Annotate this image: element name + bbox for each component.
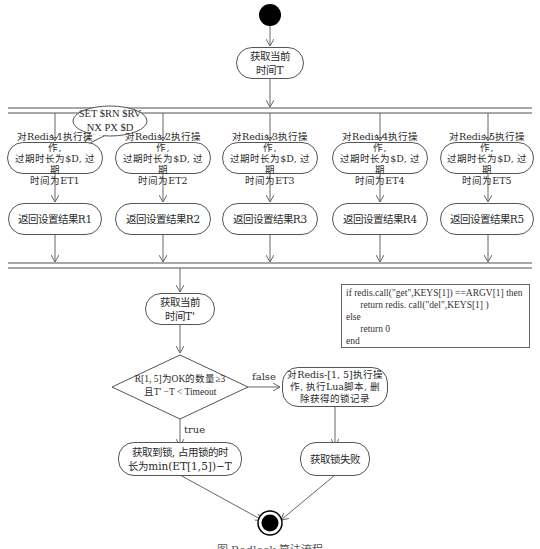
node-text: 返回设置结果R1 xyxy=(18,212,93,226)
node-text: 时间为ET2 xyxy=(120,175,206,186)
code-line: else xyxy=(346,311,525,323)
lock-acquired-node: 获取到锁, 占用锁的时长为min(ET[1,5])−T xyxy=(118,442,242,476)
node-text: 时间为ET4 xyxy=(337,175,423,186)
unlock-all-node: 对Redis-[1, 5]执行操作, 执行Lua脚本, 删除获得的锁记录 xyxy=(282,367,388,407)
node-text: 获取当前 xyxy=(160,295,200,309)
false-label: false xyxy=(252,371,276,382)
node-text: 对Redis-[1, 5]执行操 xyxy=(287,369,383,381)
redis-3-set-node: 对Redis-3执行操作,过期时长为$D, 过期时间为ET3 xyxy=(222,142,318,174)
figure-caption: 图 Redlock 算法流程 xyxy=(0,541,540,549)
node-text: 对Redis-3执行操作, xyxy=(227,131,313,153)
node-text: 返回设置结果R4 xyxy=(343,212,418,226)
redis-2-set-node: 对Redis-2执行操作,过期时长为$D, 过期时间为ET2 xyxy=(115,142,211,174)
true-label: true xyxy=(184,424,205,435)
node-text: 时间为ET5 xyxy=(445,175,529,186)
node-text: 返回设置结果R3 xyxy=(233,212,308,226)
node-text: 过期时长为$D, 过期 xyxy=(12,153,98,175)
result-r1-node: 返回设置结果R1 xyxy=(8,203,102,235)
code-line: if redis.call("get",KEYS[1]) ==ARGV[1] t… xyxy=(346,287,525,299)
node-text: 时间为ET3 xyxy=(227,175,313,186)
lua-script-box: if redis.call("get",KEYS[1]) ==ARGV[1] t… xyxy=(341,284,530,348)
decision-line: R[1, 5]为OK的数量≥3 xyxy=(120,373,240,386)
node-text: 对Redis-1执行操作, xyxy=(12,131,98,153)
get-time-t-prime-node: 获取当前时间T' xyxy=(145,293,215,325)
callout-text: SET $RN $RV xyxy=(73,107,147,121)
node-text: 时间为ET1 xyxy=(12,175,98,186)
node-text: 返回设置结果R2 xyxy=(126,212,201,226)
decision-line: 且T' −T < Timeout xyxy=(120,386,240,399)
node-text: 除获得的锁记录 xyxy=(287,393,383,405)
node-text: 获取锁失败 xyxy=(310,452,360,466)
node-text: 过期时长为$D, 过期 xyxy=(227,153,313,175)
decision-text: R[1, 5]为OK的数量≥3 且T' −T < Timeout xyxy=(120,373,240,399)
node-text: 时间T' xyxy=(160,309,200,323)
result-r5-node: 返回设置结果R5 xyxy=(440,203,534,235)
node-text: 对Redis-4执行操作, xyxy=(337,131,423,153)
result-r2-node: 返回设置结果R2 xyxy=(115,203,211,235)
node-text: 长为min(ET[1,5])−T xyxy=(128,459,232,473)
node-text: 获取当前 xyxy=(250,49,290,63)
flow-connectors xyxy=(0,0,540,549)
node-text: 作, 执行Lua脚本, 删 xyxy=(287,381,383,393)
redis-1-set-node: 对Redis-1执行操作,过期时长为$D, 过期时间为ET1 xyxy=(7,142,103,174)
node-text: 对Redis-2执行操作, xyxy=(120,131,206,153)
get-time-t-node: 获取当前时间T xyxy=(236,47,304,79)
code-line: end xyxy=(346,335,525,347)
node-text: 时间T xyxy=(250,63,290,77)
lock-failed-node: 获取锁失败 xyxy=(300,442,370,476)
result-r3-node: 返回设置结果R3 xyxy=(222,203,318,235)
code-line: return 0 xyxy=(346,323,525,335)
redis-4-set-node: 对Redis-4执行操作,过期时长为$D, 过期时间为ET4 xyxy=(332,142,428,174)
result-r4-node: 返回设置结果R4 xyxy=(332,203,428,235)
node-text: 过期时长为$D, 过期 xyxy=(120,153,206,175)
code-line: return redis. call("del",KEYS[1] ) xyxy=(346,299,525,311)
node-text: 对Redis-5执行操作, xyxy=(445,131,529,153)
node-text: 返回设置结果R5 xyxy=(450,212,525,226)
node-text: 过期时长为$D, 过期 xyxy=(337,153,423,175)
node-text: 过期时长为$D, 过期 xyxy=(445,153,529,175)
start-node xyxy=(259,4,281,26)
node-text: 获取到锁, 占用锁的时 xyxy=(128,445,232,459)
redis-5-set-node: 对Redis-5执行操作,过期时长为$D, 过期时间为ET5 xyxy=(440,142,534,174)
